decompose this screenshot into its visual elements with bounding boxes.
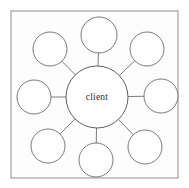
node-top-right[interactable] bbox=[130, 32, 164, 66]
diagram-canvas: client bbox=[0, 0, 189, 188]
node-left[interactable] bbox=[17, 80, 51, 114]
node-bottom[interactable] bbox=[79, 143, 113, 177]
node-right[interactable] bbox=[144, 79, 178, 113]
hub-label: client bbox=[86, 92, 108, 102]
node-bottom-right[interactable] bbox=[128, 130, 162, 164]
node-top[interactable] bbox=[81, 17, 117, 53]
hub-and-spoke-diagram: client bbox=[0, 0, 189, 188]
hub-group: client bbox=[66, 66, 128, 128]
node-top-left[interactable] bbox=[33, 32, 67, 66]
node-bottom-left[interactable] bbox=[31, 129, 65, 163]
